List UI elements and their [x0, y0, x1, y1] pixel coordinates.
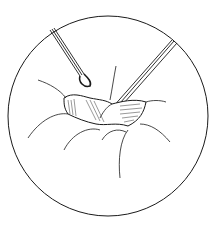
left-instrument [50, 28, 91, 86]
endoscopic-view-drawing [0, 0, 216, 228]
